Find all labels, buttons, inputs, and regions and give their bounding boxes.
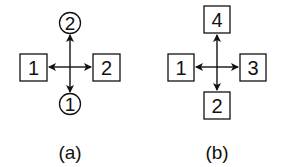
caption-b: (b)	[205, 142, 228, 163]
left-node-label: 1	[175, 57, 186, 79]
right-node-label: 2	[101, 57, 112, 79]
right-node-label: 3	[247, 57, 258, 79]
bottom-node-label: 1	[65, 94, 76, 115]
caption-a: (a)	[58, 142, 81, 163]
left-node-label: 1	[28, 57, 39, 79]
top-node-label: 2	[65, 13, 76, 34]
diagram-b: 4 1 3 2 (b)	[168, 6, 266, 163]
cross-arrows-icon	[196, 35, 238, 90]
diagram-canvas: 2 1 2 1 (a) 4 1 3 2 (b)	[0, 0, 285, 167]
diagram-a: 2 1 2 1 (a)	[20, 13, 120, 164]
bottom-node-label: 2	[211, 95, 222, 117]
top-node-label: 4	[211, 9, 222, 31]
cross-arrows-icon	[49, 35, 91, 92]
